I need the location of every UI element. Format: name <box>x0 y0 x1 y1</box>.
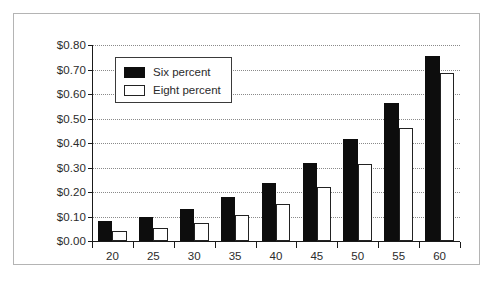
bar-six-percent-20 <box>98 221 112 241</box>
bar-eight-percent-20 <box>112 231 126 241</box>
y-axis-tick-label: $0.10 <box>57 211 86 223</box>
x-axis-tick <box>92 242 93 248</box>
bar-six-percent-30 <box>180 209 194 241</box>
filled-black-square-icon <box>124 67 145 78</box>
chart-legend: Six percent Eight percent <box>115 57 232 103</box>
figure-border: 202530354045505560 $0.00$0.10$0.20$0.30$… <box>13 13 480 265</box>
y-axis-tick-label: $0.40 <box>57 137 86 149</box>
y-axis-tick-label: $0.30 <box>57 162 86 174</box>
y-axis-tick-label: $0.20 <box>57 186 86 198</box>
x-axis-tick <box>174 242 175 248</box>
x-axis-tick <box>419 242 420 248</box>
x-axis-tick-label: 35 <box>229 250 242 262</box>
chart-screenshot: 202530354045505560 $0.00$0.10$0.20$0.30$… <box>0 0 494 283</box>
x-axis-tick <box>460 242 461 248</box>
bar-six-percent-25 <box>139 217 153 242</box>
bar-eight-percent-35 <box>235 215 249 241</box>
x-axis-tick-label: 30 <box>188 250 201 262</box>
bar-eight-percent-55 <box>399 128 413 241</box>
y-axis: $0.00$0.10$0.20$0.30$0.40$0.50$0.60$0.70… <box>92 45 93 241</box>
legend-item-six-percent: Six percent <box>124 64 224 80</box>
gridline <box>92 119 460 120</box>
y-axis-tick <box>88 45 93 46</box>
bar-six-percent-55 <box>384 103 398 241</box>
y-axis-tick <box>88 217 93 218</box>
x-axis-tick <box>296 242 297 248</box>
bar-six-percent-35 <box>221 197 235 241</box>
bar-six-percent-45 <box>303 163 317 241</box>
legend-item-eight-percent: Eight percent <box>124 82 224 98</box>
bar-eight-percent-30 <box>194 223 208 241</box>
x-axis-tick-label: 20 <box>106 250 119 262</box>
outlined-white-square-icon <box>124 85 145 96</box>
x-axis <box>92 241 460 242</box>
gridline <box>92 45 460 46</box>
bar-eight-percent-45 <box>317 187 331 241</box>
x-axis-tick-label: 60 <box>433 250 446 262</box>
y-axis-tick <box>88 94 93 95</box>
x-axis-tick-label: 40 <box>270 250 283 262</box>
bar-eight-percent-40 <box>276 204 290 241</box>
bar-six-percent-60 <box>425 56 439 241</box>
x-axis-tick <box>256 242 257 248</box>
bar-six-percent-40 <box>262 183 276 241</box>
y-axis-tick-label: $0.00 <box>57 235 86 247</box>
bar-eight-percent-25 <box>153 228 167 241</box>
bar-eight-percent-60 <box>440 73 454 241</box>
y-axis-tick <box>88 192 93 193</box>
y-axis-tick-label: $0.60 <box>57 88 86 100</box>
x-axis-tick-label: 50 <box>351 250 364 262</box>
y-axis-tick-label: $0.70 <box>57 64 86 76</box>
y-axis-tick <box>88 119 93 120</box>
x-axis-tick <box>337 242 338 248</box>
y-axis-tick-label: $0.50 <box>57 113 86 125</box>
legend-label-eight-percent: Eight percent <box>153 84 221 96</box>
y-axis-tick <box>88 168 93 169</box>
bar-eight-percent-50 <box>358 164 372 241</box>
legend-label-six-percent: Six percent <box>153 66 211 78</box>
y-axis-tick-label: $0.80 <box>57 39 86 51</box>
x-axis-tick <box>378 242 379 248</box>
x-axis-tick-label: 55 <box>392 250 405 262</box>
x-axis-tick-label: 45 <box>310 250 323 262</box>
x-axis-tick <box>133 242 134 248</box>
x-axis-tick <box>215 242 216 248</box>
y-axis-tick <box>88 70 93 71</box>
y-axis-tick <box>88 143 93 144</box>
x-axis-tick-label: 25 <box>147 250 160 262</box>
bar-six-percent-50 <box>343 139 357 241</box>
